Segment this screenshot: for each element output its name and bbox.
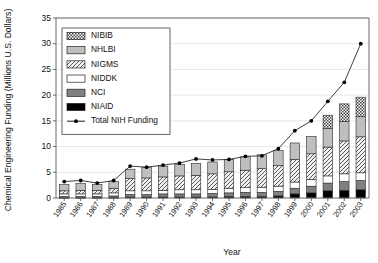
bar-segment	[356, 181, 366, 190]
bar-segment	[290, 159, 300, 182]
bar-segment	[340, 182, 350, 191]
bar-segment	[340, 141, 350, 174]
bar-segment	[175, 190, 185, 194]
y-axis-ticks: 05101520253035	[42, 13, 56, 203]
bar-segment	[142, 168, 152, 178]
bar-segment	[274, 151, 284, 166]
legend-label: NIGMS	[91, 59, 119, 69]
bar-segment	[274, 186, 284, 191]
bar-segment	[109, 182, 119, 189]
y-tick-label: 0	[46, 193, 51, 203]
bar-segment	[340, 121, 350, 141]
line-data-point	[62, 180, 66, 184]
y-tick-label: 35	[42, 13, 52, 23]
bar-segment	[76, 184, 86, 191]
bar-segment	[323, 183, 333, 191]
bar-segment	[224, 188, 234, 193]
bar-segment	[191, 194, 201, 197]
line-data-point	[128, 164, 132, 168]
chart-canvas: 05101520253035 1985198619871988198919901…	[0, 0, 378, 263]
y-tick-label: 15	[42, 116, 52, 126]
legend-label: Total NIH Funding	[91, 115, 158, 125]
line-data-point	[95, 181, 99, 185]
line-data-point	[359, 42, 363, 46]
bar-segment	[307, 193, 317, 198]
line-data-point	[112, 179, 116, 183]
x-axis-title: Year	[223, 247, 241, 257]
x-tick-label: 1993	[183, 200, 200, 219]
line-data-point	[244, 154, 248, 158]
bar-segment	[59, 185, 69, 191]
bar-segment	[241, 192, 251, 196]
legend-swatch-icon	[67, 61, 85, 68]
bar-segment	[323, 176, 333, 183]
chart-figure: 05101520253035 1985198619871988198919901…	[0, 0, 378, 263]
line-data-point	[211, 158, 215, 162]
line-data-point	[161, 163, 165, 167]
bar-segment	[356, 97, 366, 117]
bar-segment	[92, 190, 102, 194]
line-data-point	[227, 158, 231, 162]
x-tick-label: 1988	[101, 200, 118, 219]
x-tick-label: 1999	[282, 200, 299, 219]
bar-segment	[175, 165, 185, 176]
x-tick-label: 2000	[298, 200, 315, 219]
legend-swatch-icon	[67, 32, 85, 39]
line-data-point	[145, 165, 149, 169]
bar-segment	[158, 166, 168, 177]
bar-segment	[191, 164, 201, 176]
bar-segment	[257, 169, 267, 188]
bar-segment	[191, 175, 201, 189]
x-tick-label: 1987	[84, 200, 101, 219]
bar-segment	[59, 194, 69, 197]
bar-segment	[142, 178, 152, 191]
x-tick-label: 1997	[249, 200, 266, 219]
bar-segment	[323, 147, 333, 176]
legend-label: NIBIB	[91, 30, 113, 40]
bar-segment	[208, 189, 218, 193]
bar-segment	[241, 157, 251, 170]
line-data-point	[342, 80, 346, 84]
bar-segment	[175, 176, 185, 190]
bar-segment	[307, 154, 317, 180]
bar-segment	[109, 193, 119, 196]
x-tick-label: 1998	[265, 200, 282, 219]
bar-segment	[290, 182, 300, 188]
bar-segment	[208, 174, 218, 189]
bar-segment	[125, 169, 135, 178]
line-data-point	[276, 147, 280, 151]
x-tick-label: 1989	[117, 200, 134, 219]
x-tick-label: 1994	[200, 200, 217, 219]
bar-segment	[323, 129, 333, 148]
bar-segment	[208, 193, 218, 197]
bar-segment	[307, 186, 317, 193]
bar-segment	[59, 191, 69, 194]
legend-label: NCI	[91, 87, 105, 97]
line-data-point	[194, 157, 198, 161]
x-tick-label: 1991	[150, 200, 167, 219]
bar-segment	[356, 190, 366, 198]
x-tick-label: 2003	[348, 200, 365, 219]
bar-segment	[274, 191, 284, 196]
bar-segment	[125, 194, 135, 197]
y-tick-label: 25	[42, 64, 52, 74]
x-tick-label: 1995	[216, 200, 233, 219]
y-tick-label: 20	[42, 90, 52, 100]
bar-segment	[307, 136, 317, 153]
legend-swatch-icon	[67, 103, 85, 110]
line-data-point	[326, 99, 330, 103]
x-tick-label: 1990	[134, 200, 151, 219]
bar-segment	[290, 194, 300, 198]
bar-segment	[109, 188, 119, 193]
x-tick-label: 2002	[331, 200, 348, 219]
bar-segment	[208, 162, 218, 174]
legend-label: NIAID	[91, 101, 113, 111]
bar-segment	[92, 194, 102, 197]
bar-segment	[340, 190, 350, 198]
legend-label: NHLBI	[91, 44, 116, 54]
bar-segment	[340, 104, 350, 121]
y-tick-label: 10	[42, 141, 52, 151]
bar-segment	[224, 193, 234, 197]
bar-segment	[290, 188, 300, 194]
bar-segment	[125, 191, 135, 195]
